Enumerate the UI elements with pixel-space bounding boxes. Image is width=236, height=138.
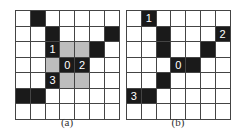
grid-cell: [127, 11, 141, 26]
cell-label: 0: [175, 59, 181, 71]
cell-label: 2: [79, 59, 85, 71]
grid-cell: [157, 73, 171, 88]
caption-a: (a): [15, 116, 119, 128]
grid-cell: [186, 89, 200, 104]
grid-cell: [127, 27, 141, 42]
grid-cell: [31, 27, 45, 42]
grid-cell: [31, 89, 45, 104]
grid-cell: [75, 73, 89, 88]
grid-cell: [46, 58, 60, 73]
grid-cell: [75, 11, 89, 26]
grid-cell: [31, 73, 45, 88]
grid-cell: [46, 11, 60, 26]
grid-cell: [16, 73, 30, 88]
grid-cell: [186, 42, 200, 57]
grid-cell: [46, 89, 60, 104]
grid-cell: [105, 58, 119, 73]
caption-b: (b): [126, 116, 230, 128]
grid-cell: [75, 27, 89, 42]
grid-cell: [127, 42, 141, 57]
grid-cell: [157, 11, 171, 26]
grid-cell: [216, 11, 230, 26]
grid-cell: [142, 73, 156, 88]
grid-cell: 3: [127, 89, 141, 104]
grid-cell: [201, 27, 215, 42]
grid-cell: [157, 58, 171, 73]
grid-cell: [31, 58, 45, 73]
grid-cell: [31, 42, 45, 57]
grid-cell: [142, 42, 156, 57]
grid-cell: [142, 89, 156, 104]
grid-cell: [127, 73, 141, 88]
grid-cell: [16, 11, 30, 26]
grid-cell: 3: [46, 73, 60, 88]
grid-cell: [157, 27, 171, 42]
cell-label: 0: [64, 59, 70, 71]
grid-cell: 1: [142, 11, 156, 26]
grid-cell: [90, 58, 104, 73]
grid-cell: [171, 11, 185, 26]
grid-cell: 2: [75, 58, 89, 73]
grid-cell: [201, 42, 215, 57]
grid-cell: [216, 89, 230, 104]
grid-cell: [46, 27, 60, 42]
grid-cell: [90, 73, 104, 88]
cell-label: 3: [49, 74, 55, 86]
grid-cell: [186, 27, 200, 42]
grid-cell: [201, 89, 215, 104]
grid-cell: [60, 11, 74, 26]
grid-cell: [127, 58, 141, 73]
grid-cell: [60, 42, 74, 57]
grid-cell: [216, 42, 230, 57]
grid-cell: [171, 42, 185, 57]
grid-cell: 2: [216, 27, 230, 42]
grid-cell: [16, 27, 30, 42]
grid-cell: 0: [60, 58, 74, 73]
grid-cell: [171, 27, 185, 42]
grid-cell: [201, 58, 215, 73]
grid-b: 1203: [126, 10, 231, 120]
grid-cell: [31, 11, 45, 26]
grid-cell: [105, 89, 119, 104]
grid-cell: [105, 11, 119, 26]
grid-cell: [90, 11, 104, 26]
grid-cell: [186, 11, 200, 26]
cell-label: 1: [146, 12, 152, 24]
grid-cell: [142, 27, 156, 42]
grid-cell: [105, 27, 119, 42]
grid-cell: [157, 89, 171, 104]
grid-cell: [171, 89, 185, 104]
grid-cell: [60, 89, 74, 104]
grid-cell: 0: [171, 58, 185, 73]
cell-label: 2: [220, 28, 226, 40]
grid-cell: [75, 89, 89, 104]
grid-cell: [171, 73, 185, 88]
panel-a: 1023 (a): [15, 10, 119, 120]
grid-cell: [60, 27, 74, 42]
grid-cell: [16, 42, 30, 57]
grid-cell: [186, 58, 200, 73]
grid-cell: [105, 42, 119, 57]
panel-b: 1203 (b): [126, 10, 230, 120]
grid-cell: 1: [46, 42, 60, 57]
grid-cell: [186, 73, 200, 88]
grid-cell: [216, 58, 230, 73]
grid-cell: [201, 73, 215, 88]
grid-cell: [90, 89, 104, 104]
grid-cell: [60, 73, 74, 88]
grid-cell: [90, 42, 104, 57]
cell-label: 1: [49, 43, 55, 55]
grid-cell: [142, 58, 156, 73]
grid-cell: [105, 73, 119, 88]
grid-a: 1023: [15, 10, 120, 120]
grid-cell: [16, 89, 30, 104]
grid-cell: [75, 42, 89, 57]
grid-cell: [216, 73, 230, 88]
grid-cell: [90, 27, 104, 42]
cell-label: 3: [131, 90, 137, 102]
grid-cell: [201, 11, 215, 26]
grid-cell: [16, 58, 30, 73]
grid-cell: [157, 42, 171, 57]
